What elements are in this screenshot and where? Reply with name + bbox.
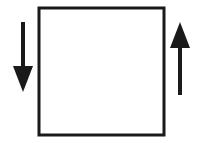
wiring-diagram <box>0 0 203 143</box>
frame <box>39 8 164 135</box>
up-arrow-icon <box>170 22 190 95</box>
down-arrow-icon <box>13 22 33 92</box>
